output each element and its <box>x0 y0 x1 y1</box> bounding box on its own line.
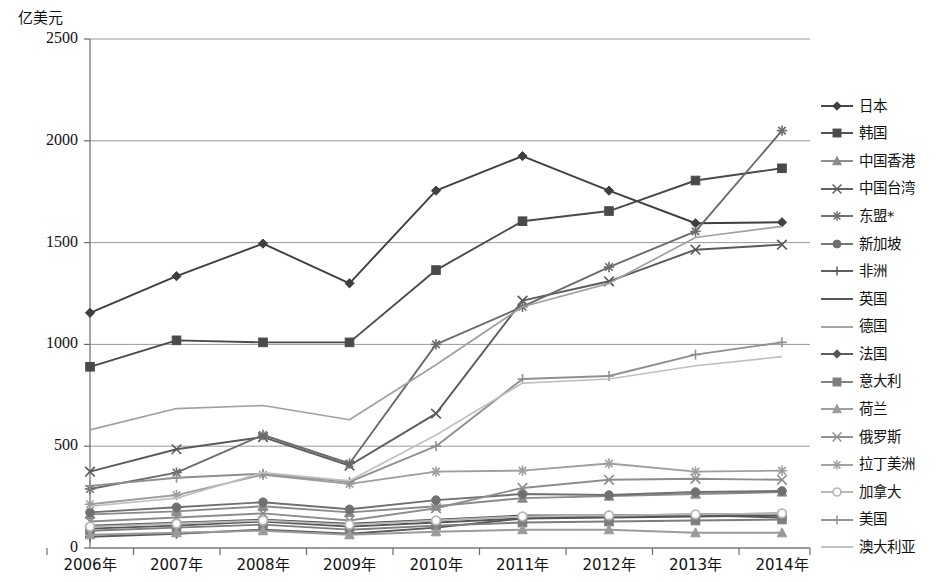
legend-label: 意大利 <box>859 374 901 389</box>
legend-marker-icon <box>820 539 854 555</box>
x-tick-label: 2013年 <box>653 553 739 574</box>
legend-marker-icon <box>820 374 854 390</box>
x-tick-label: 2007年 <box>134 553 220 574</box>
legend-item[interactable]: 日本 <box>820 92 936 120</box>
legend-marker-icon <box>820 401 854 417</box>
legend-marker-icon <box>820 263 854 279</box>
y-tick-label: 1500 <box>20 233 78 251</box>
series-line <box>85 151 786 317</box>
chart-legend: 日本韩国中国香港中国台湾东盟*新加坡非洲英国德国法国意大利荷兰俄罗斯拉丁美洲加拿… <box>820 92 936 562</box>
legend-item[interactable]: 荷兰 <box>820 396 936 424</box>
legend-label: 美国 <box>859 512 887 527</box>
legend-label: 英国 <box>859 292 887 307</box>
x-tick-label: 2008年 <box>220 553 306 574</box>
legend-label: 德国 <box>859 319 887 334</box>
y-tick-label: 500 <box>20 436 78 454</box>
x-tick-label: 2009年 <box>307 553 393 574</box>
legend-item[interactable]: 意大利 <box>820 368 936 396</box>
legend-item[interactable]: 中国台湾 <box>820 175 936 203</box>
legend-item[interactable]: 东盟* <box>820 202 936 230</box>
x-tick-label: 2006年 <box>47 553 133 574</box>
legend-label: 加拿大 <box>859 485 901 500</box>
legend-label: 荷兰 <box>859 402 887 417</box>
legend-marker-icon <box>820 125 854 141</box>
legend-item[interactable]: 拉丁美洲 <box>820 451 936 479</box>
y-tick-label: 2500 <box>20 29 78 47</box>
legend-label: 拉丁美洲 <box>859 457 915 472</box>
line-chart-svg <box>0 0 820 582</box>
legend-label: 中国台湾 <box>859 181 915 196</box>
x-tick-label: 2014年 <box>739 553 825 574</box>
legend-label: 韩国 <box>859 126 887 141</box>
legend-item[interactable]: 英国 <box>820 285 936 313</box>
legend-item[interactable]: 加拿大 <box>820 478 936 506</box>
legend-marker-icon <box>820 429 854 445</box>
legend-marker-icon <box>820 484 854 500</box>
legend-item[interactable]: 韩国 <box>820 120 936 148</box>
legend-item[interactable]: 俄罗斯 <box>820 423 936 451</box>
legend-label: 非洲 <box>859 264 887 279</box>
series-line <box>90 357 782 507</box>
legend-item[interactable]: 美国 <box>820 506 936 534</box>
legend-item[interactable]: 澳大利亚 <box>820 534 936 562</box>
legend-marker-icon <box>820 208 854 224</box>
legend-label: 澳大利亚 <box>859 540 915 555</box>
y-tick-label: 2000 <box>20 131 78 149</box>
legend-marker-icon <box>820 319 854 335</box>
legend-item[interactable]: 中国香港 <box>820 147 936 175</box>
legend-label: 东盟* <box>859 209 894 224</box>
legend-label: 中国香港 <box>859 154 915 169</box>
chart-screenshot: 亿美元 05001000150020002500 2006年2007年2008年… <box>0 0 936 582</box>
legend-marker-icon <box>820 153 854 169</box>
legend-label: 日本 <box>859 99 887 114</box>
legend-item[interactable]: 新加坡 <box>820 230 936 258</box>
legend-item[interactable]: 德国 <box>820 313 936 341</box>
series-line <box>85 125 787 494</box>
legend-label: 俄罗斯 <box>859 430 901 445</box>
y-tick-label: 1000 <box>20 334 78 352</box>
x-tick-label: 2010年 <box>393 553 479 574</box>
chart-plot-area: 亿美元 05001000150020002500 2006年2007年2008年… <box>0 0 820 582</box>
legend-marker-icon <box>820 291 854 307</box>
legend-marker-icon <box>820 98 854 114</box>
x-tick-label: 2011年 <box>480 553 566 574</box>
legend-item[interactable]: 法国 <box>820 340 936 368</box>
legend-label: 新加坡 <box>859 237 901 252</box>
legend-marker-icon <box>820 346 854 362</box>
legend-marker-icon <box>820 181 854 197</box>
legend-marker-icon <box>820 236 854 252</box>
legend-item[interactable]: 非洲 <box>820 258 936 286</box>
legend-marker-icon <box>820 457 854 473</box>
legend-marker-icon <box>820 512 854 528</box>
legend-label: 法国 <box>859 347 887 362</box>
x-tick-label: 2012年 <box>566 553 652 574</box>
